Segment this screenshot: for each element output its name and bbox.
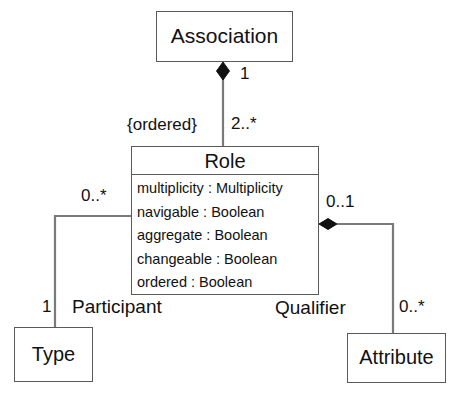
constraint-label-ordered: {ordered} <box>127 115 197 135</box>
multiplicity-label-role-end: 2..* <box>231 114 257 134</box>
multiplicity-label-participant-role-end: 0..* <box>81 186 107 206</box>
multiplicity-label-type-end: 1 <box>42 297 51 317</box>
multiplicity-label-qualifier-role-end: 0..1 <box>326 192 354 212</box>
class-attribute-row: navigable : Boolean <box>137 201 318 225</box>
uml-class-type[interactable]: Type <box>14 327 93 382</box>
class-attribute-row: ordered : Boolean <box>137 271 318 295</box>
association-name-qualifier: Qualifier <box>275 297 346 319</box>
uml-class-association[interactable]: Association <box>156 11 293 62</box>
class-name-attribute: Attribute <box>348 334 445 381</box>
class-attribute-row: multiplicity : Multiplicity <box>137 177 318 201</box>
class-name-type: Type <box>15 328 92 380</box>
class-attributes-role: multiplicity : Multiplicity navigable : … <box>132 174 318 297</box>
class-name-role: Role <box>132 147 318 174</box>
aggregation-diamond-qualifier <box>319 219 337 230</box>
uml-class-role[interactable]: Role multiplicity : Multiplicity navigab… <box>131 146 319 295</box>
class-name-association: Association <box>157 12 292 60</box>
multiplicity-label-attribute-end: 0..* <box>399 297 425 317</box>
uml-class-diagram: Association Role multiplicity : Multipli… <box>0 0 461 397</box>
class-attribute-row: changeable : Boolean <box>137 248 318 272</box>
uml-class-attribute[interactable]: Attribute <box>347 333 446 383</box>
association-name-participant: Participant <box>72 296 162 318</box>
composition-diamond-association <box>217 62 230 80</box>
class-attribute-row: aggregate : Boolean <box>137 224 318 248</box>
multiplicity-label-association-end: 1 <box>240 64 249 84</box>
